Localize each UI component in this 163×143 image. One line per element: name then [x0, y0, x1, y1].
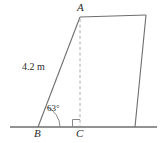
segment-right [135, 15, 146, 127]
right-angle-marker [73, 120, 81, 128]
side-length-label: 4.2 m [22, 62, 45, 72]
angle-measure-label: 63° [47, 104, 60, 113]
vertex-label-c: C [76, 128, 83, 139]
segment-top [80, 15, 146, 17]
geometry-figure: A B C 4.2 m 63° [0, 0, 163, 143]
vertex-label-b: B [34, 128, 41, 139]
vertex-label-a: A [77, 2, 84, 13]
